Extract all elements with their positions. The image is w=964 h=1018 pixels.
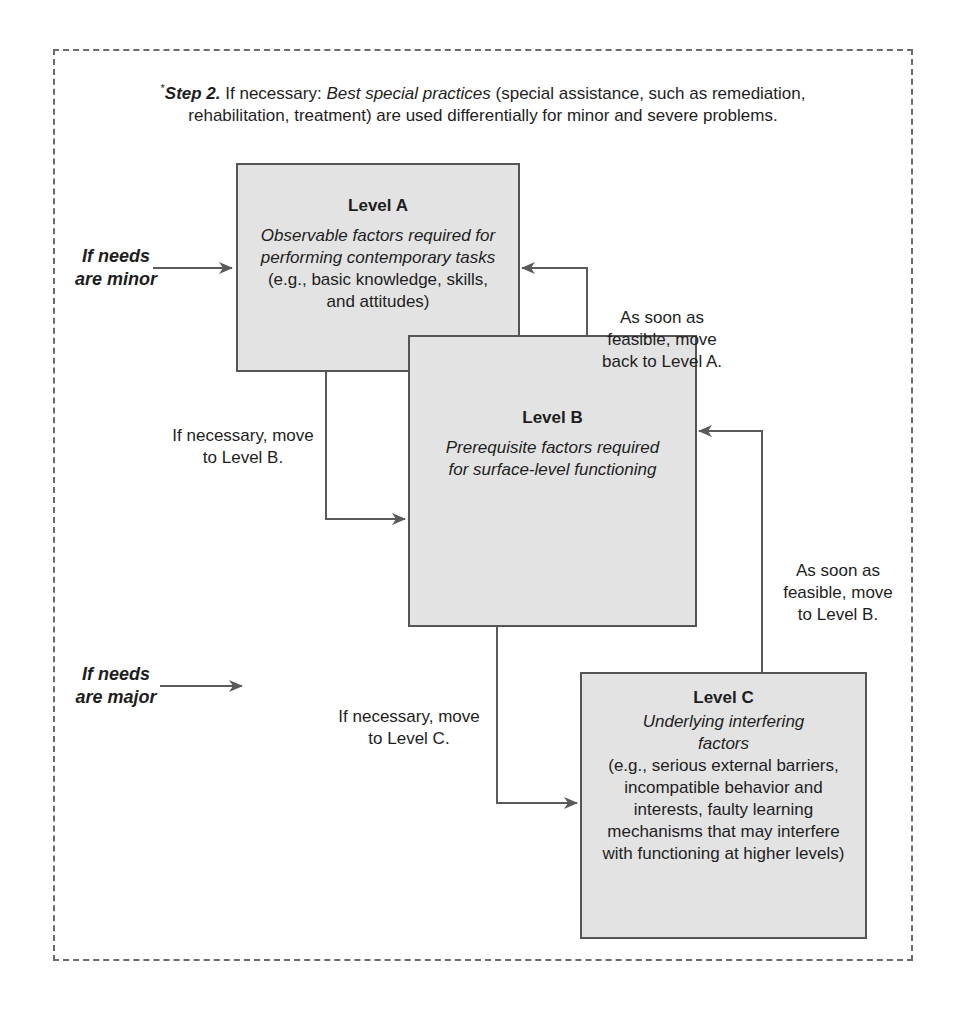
a-to-b-label: If necessary, move to Level B. bbox=[168, 425, 318, 469]
c-to-b-label: As soon as feasible, move to Level B. bbox=[774, 560, 902, 626]
level-b-box: Level B Prerequisite factors required fo… bbox=[408, 335, 697, 627]
b-to-c-label: If necessary, move to Level C. bbox=[333, 706, 485, 750]
level-c-box: Level C Underlying interfering factors (… bbox=[580, 672, 867, 939]
level-a-text: (e.g., basic knowledge, skills, and atti… bbox=[268, 270, 488, 311]
level-a-italic: Observable factors required for performi… bbox=[261, 226, 495, 267]
b-to-c-arrow bbox=[497, 627, 577, 803]
b-to-a-label: As soon as feasible, move back to Level … bbox=[598, 307, 726, 373]
level-b-italic: Prerequisite factors required for surfac… bbox=[446, 438, 660, 479]
b-to-a-arrow bbox=[522, 268, 587, 335]
a-to-b-arrow bbox=[326, 371, 405, 519]
level-c-text: (e.g., serious external barriers, incomp… bbox=[592, 755, 855, 865]
major-needs-label: If needs are major bbox=[70, 663, 162, 709]
level-c-title: Level C bbox=[592, 687, 855, 709]
level-b-title: Level B bbox=[440, 407, 665, 429]
level-c-italic: Underlying interfering factors bbox=[592, 711, 855, 755]
c-to-b-arrow bbox=[699, 431, 762, 672]
level-a-title: Level A bbox=[252, 195, 504, 217]
minor-needs-label: If needs are minor bbox=[70, 245, 162, 291]
